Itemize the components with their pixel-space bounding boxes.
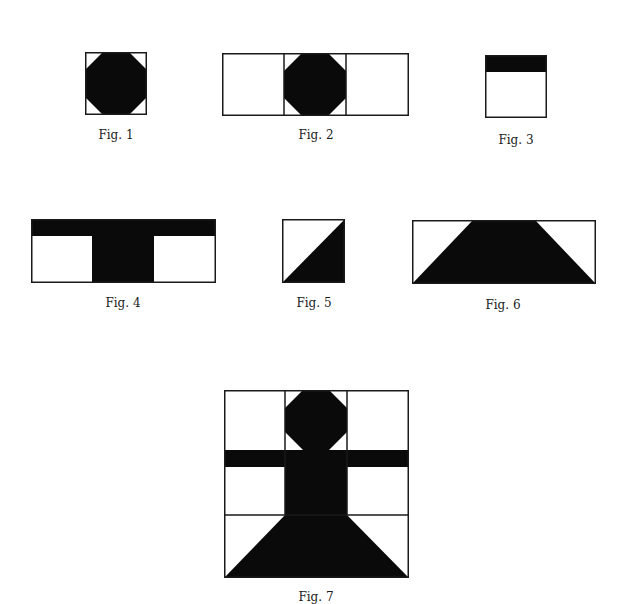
figure-6	[412, 220, 596, 284]
figure-2	[222, 53, 409, 116]
square-top-band-icon	[485, 55, 547, 118]
trapezoid-icon	[412, 220, 596, 284]
figure-3-caption: Fig. 3	[476, 133, 556, 147]
figure-7-caption: Fig. 7	[276, 590, 356, 604]
octagon-in-square-icon	[85, 52, 147, 115]
figure-4	[31, 219, 216, 283]
figure-6-caption: Fig. 6	[463, 298, 543, 312]
figure-1	[85, 52, 147, 115]
figure-4-caption: Fig. 4	[83, 296, 163, 310]
three-squares-octagon-icon	[222, 53, 409, 116]
diagonal-half-square-icon	[282, 219, 345, 283]
figure-5-caption: Fig. 5	[274, 296, 354, 310]
figure-2-caption: Fig. 2	[276, 128, 356, 142]
figure-1-caption: Fig. 1	[76, 128, 156, 142]
figure-7	[224, 390, 409, 578]
composite-figure-icon	[224, 390, 409, 578]
figure-3	[485, 55, 547, 118]
figure-5	[282, 219, 345, 283]
t-shape-icon	[31, 219, 216, 283]
